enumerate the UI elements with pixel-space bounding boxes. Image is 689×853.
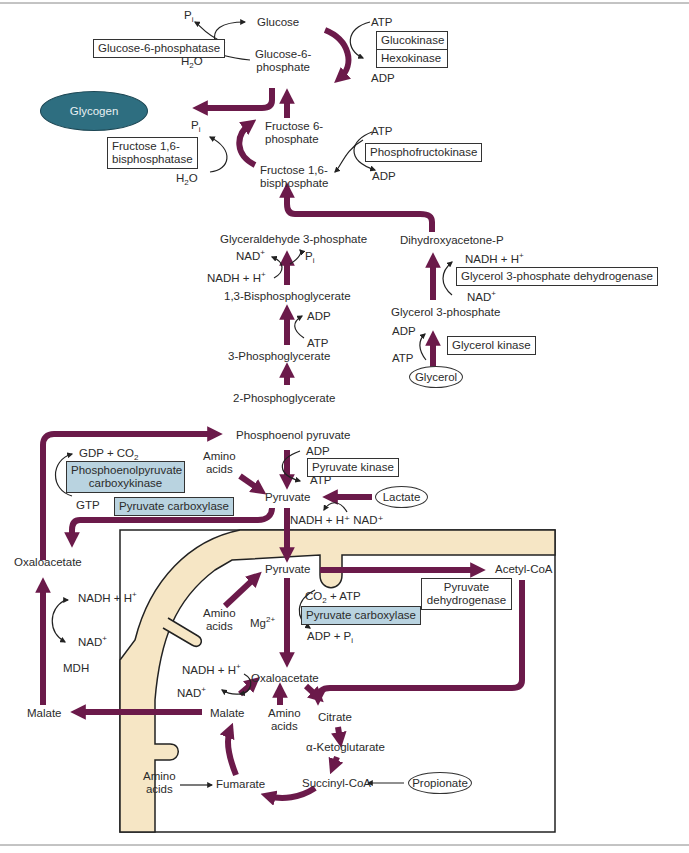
enzyme-pyruvate-dehydrogenase: Pyruvatedehydrogenase xyxy=(421,578,512,610)
adp-label-5: ADP xyxy=(306,445,330,458)
nad-label: NAD+ xyxy=(236,250,265,263)
adp-label-3: ADP xyxy=(307,310,331,323)
nad-label-3: NAD+ xyxy=(78,636,107,649)
nadh-label-3: NADH + H+ xyxy=(78,592,137,605)
adp-label: ADP xyxy=(371,72,395,85)
metabolite-glucose: Glucose xyxy=(257,16,299,29)
metabolite-succinyl-coa: Succinyl-CoA xyxy=(302,777,371,790)
nad-label-4: NAD+ xyxy=(177,687,206,700)
atp-label: ATP xyxy=(371,16,393,29)
metabolite-malate-cytosol: Malate xyxy=(27,707,62,720)
metabolite-alpha-ketoglutarate: α-Ketoglutarate xyxy=(306,741,385,754)
gdp-co2-label: GDP + CO2 xyxy=(79,447,139,460)
enzyme-hexokinase: Hexokinase xyxy=(376,49,448,68)
enzyme-glycerol-3-phosphate-dehydrogenase: Glycerol 3-phosphate dehydrogenase xyxy=(456,267,658,286)
mg-label: Mg2+ xyxy=(250,617,275,630)
enzyme-glucose-6-phosphatase: Glucose-6-phosphatase xyxy=(93,39,225,58)
atp-label-3: ATP xyxy=(307,337,329,350)
metabolite-glyceraldehyde-3-phosphate: Glyceraldehyde 3-phosphate xyxy=(220,233,367,246)
nad-label-2: NAD+ xyxy=(467,291,496,304)
metabolite-pyruvate-cytosol: Pyruvate xyxy=(265,491,310,504)
gtp-label: GTP xyxy=(76,499,100,512)
mdh-label: MDH xyxy=(63,662,89,675)
nadh-label-4: NADH + H+ xyxy=(182,664,241,677)
metabolite-propionate: Propionate xyxy=(408,772,472,794)
metabolite-glycogen: Glycogen xyxy=(40,91,148,131)
metabolite-fructose-6-phosphate: Fructose 6-phosphate xyxy=(265,120,323,146)
atp-label-4: ATP xyxy=(392,352,414,365)
pi-label: Pi xyxy=(184,9,193,22)
enzyme-glucokinase: Glucokinase xyxy=(376,31,448,50)
metabolite-glycerol: Glycerol xyxy=(409,366,463,388)
nadh-label: NADH + H+ xyxy=(207,272,266,285)
enzyme-pyruvate-carboxylase-cytosol: Pyruvate carboxylase xyxy=(114,497,234,516)
metabolite-oxaloacetate-cytosol: Oxaloacetate xyxy=(14,556,82,569)
metabolite-malate-mito: Malate xyxy=(210,707,245,720)
enzyme-phosphoenolpyruvate-carboxykinase: Phosphoenolpyruvatecarboxykinase xyxy=(66,461,185,493)
nadh-label-2: NADH + H+ xyxy=(465,253,524,266)
metabolite-oxaloacetate-mito: Oxaloacetate xyxy=(251,672,319,685)
amino-acids-label-2: Aminoacids xyxy=(203,607,236,633)
metabolite-phosphoenol-pyruvate: Phosphoenol pyruvate xyxy=(236,429,350,442)
metabolite-dihydroxyacetone-p: Dihydroxyacetone-P xyxy=(400,234,504,247)
metabolite-glucose-6-phosphate: Glucose-6-phosphate xyxy=(255,48,311,74)
adp-label-2: ADP xyxy=(372,170,396,183)
amino-acids-label-4: Aminoacids xyxy=(143,770,176,796)
metabolite-lactate: Lactate xyxy=(375,486,428,508)
adp-pi-label: ADP + Pi xyxy=(307,630,353,643)
metabolite-2-phosphoglycerate: 2-Phosphoglycerate xyxy=(233,392,335,405)
atp-label-5: ATP xyxy=(310,474,332,487)
metabolite-1-3-bisphosphoglycerate: 1,3-Bisphosphoglycerate xyxy=(224,290,351,303)
enzyme-glycerol-kinase: Glycerol kinase xyxy=(447,336,536,355)
co2-atp-label: CO2 + ATP xyxy=(305,590,361,603)
nadh-nad-label: NADH + H⁺ NAD⁺ xyxy=(290,514,384,527)
adp-label-4: ADP xyxy=(392,325,416,338)
enzyme-phosphofructokinase: Phosphofructokinase xyxy=(365,143,482,162)
h2o-label: H2O xyxy=(181,55,203,68)
metabolite-fumarate: Fumarate xyxy=(216,778,265,791)
pi-label-3: Pi xyxy=(305,250,314,263)
metabolite-fructose-1-6-bisphosphate: Fructose 1,6-bisphosphate xyxy=(260,164,328,190)
amino-acids-label-3: Aminoacids xyxy=(268,707,301,733)
metabolite-pyruvate-mito: Pyruvate xyxy=(265,563,310,576)
metabolite-citrate: Citrate xyxy=(318,711,352,724)
enzyme-fructose-1-6-bisphosphatase: Fructose 1,6-bisphosphatase xyxy=(107,137,198,169)
metabolite-3-phosphoglycerate: 3-Phosphoglycerate xyxy=(228,350,330,363)
enzyme-pyruvate-carboxylase-mito: Pyruvate carboxylase xyxy=(301,606,421,625)
metabolite-acetyl-coa: Acetyl-CoA xyxy=(495,563,553,576)
pi-label-2: Pi xyxy=(191,119,200,132)
atp-label-2: ATP xyxy=(371,125,393,138)
metabolite-glycerol-3-phosphate: Glycerol 3-phosphate xyxy=(391,306,500,319)
h2o-label-2: H2O xyxy=(176,172,198,185)
amino-acids-label-1: Aminoacids xyxy=(203,450,236,476)
